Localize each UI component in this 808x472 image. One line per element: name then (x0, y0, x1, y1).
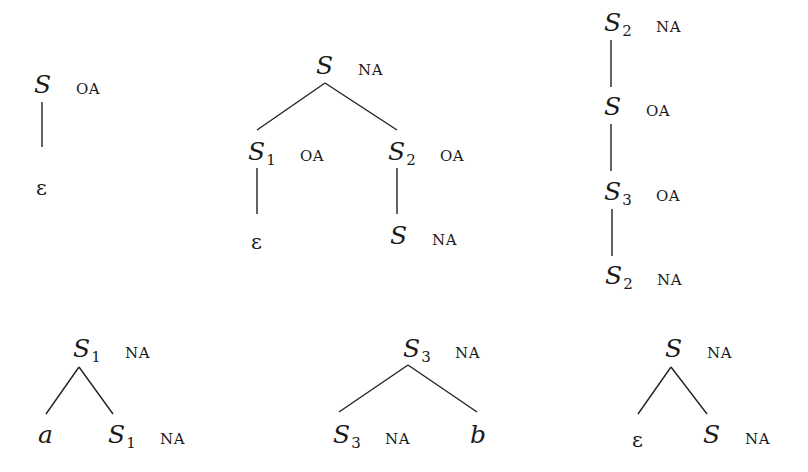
tree-node: ε (36, 176, 47, 200)
adjunction-constraint: OA (300, 147, 324, 165)
adjunction-constraint: NA (385, 430, 410, 448)
node-subscript: 1 (126, 434, 136, 452)
adjunction-constraint: NA (432, 231, 457, 249)
tree-node: ε (251, 230, 262, 254)
tree-edge (339, 365, 408, 412)
adjunction-constraint: OA (646, 102, 670, 120)
tree-node: S (316, 51, 333, 80)
node-subscript: 1 (266, 151, 276, 169)
adjunction-constraint: OA (76, 80, 100, 98)
tree-edge (638, 367, 671, 414)
tree-node: S (665, 334, 682, 363)
tree-diagram: SOAεSNAS1OAS2OAεSNAS2NASOAS3OAS2NAS1NAaS… (0, 0, 808, 472)
tree-edge (325, 83, 397, 130)
tree-edge (46, 367, 79, 414)
node-subscript: 3 (421, 348, 431, 366)
tree-node: S (703, 420, 720, 449)
tree-node: S3 (604, 177, 632, 209)
adjunction-constraint: NA (707, 344, 732, 362)
adjunction-constraint: NA (160, 430, 185, 448)
tree-node: S (390, 221, 407, 250)
node-subscript: 1 (91, 348, 101, 366)
adjunction-constraint: OA (656, 187, 680, 205)
adjunction-constraint: NA (125, 344, 150, 362)
tree-edge (408, 365, 477, 412)
tree-node: ε (632, 428, 643, 452)
tree-node: S1 (248, 137, 276, 169)
tree-node: S (34, 70, 51, 99)
adjunction-constraint: NA (656, 18, 681, 36)
tree-node: S2 (604, 8, 632, 40)
tree-node: S1 (73, 334, 101, 366)
node-subscript: 3 (351, 434, 361, 452)
tree-node: S1 (108, 420, 136, 452)
tree-node: b (470, 420, 486, 449)
node-subscript: 2 (406, 151, 416, 169)
node-subscript: 3 (622, 191, 632, 209)
tree-edge (257, 83, 325, 130)
tree-node: S3 (333, 420, 361, 452)
adjunction-constraint: NA (358, 61, 383, 79)
tree-node: S2 (388, 137, 416, 169)
node-subscript: 2 (622, 22, 632, 40)
tree-edge (671, 367, 707, 414)
tree-edge (79, 367, 113, 414)
adjunction-constraint: NA (657, 271, 682, 289)
adjunction-constraint: NA (455, 344, 480, 362)
adjunction-constraint: NA (745, 430, 770, 448)
tree-node: S3 (403, 334, 431, 366)
tree-node: S (604, 92, 621, 121)
adjunction-constraint: OA (440, 147, 464, 165)
tree-node: S2 (605, 261, 633, 293)
node-subscript: 2 (623, 275, 633, 293)
tree-node: a (38, 420, 53, 449)
